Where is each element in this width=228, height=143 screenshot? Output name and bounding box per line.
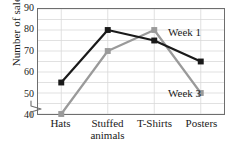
x-axis-tick-label: T-Shirts — [137, 117, 172, 129]
data-point-marker — [151, 27, 157, 33]
x-axis-tick-label: Posters — [186, 117, 218, 129]
x-axis-tick-labels: HatsStuffedanimalsT-ShirtsPosters — [37, 117, 225, 143]
x-axis-tick-label: Hats — [50, 117, 70, 129]
x-axis-tick-label: Stuffedanimals — [90, 117, 124, 141]
y-axis-tick-label: 60 — [14, 67, 34, 77]
y-axis-tick-labels: 405060708090 — [13, 0, 34, 143]
axis-break-icon — [30, 100, 44, 118]
line-chart: Number of sales 405060708090 HatsStuffed… — [0, 0, 228, 143]
series-annotation-week-1: Week 1 — [168, 27, 201, 38]
data-point-marker — [105, 48, 111, 54]
data-point-marker — [58, 80, 64, 86]
data-point-marker — [151, 38, 157, 44]
y-axis-tick-label: 80 — [14, 24, 34, 34]
y-axis-tick-label: 50 — [14, 89, 34, 99]
series-line — [61, 30, 201, 114]
y-axis-tick-label: 70 — [14, 46, 34, 56]
y-axis-tick-label: 90 — [14, 3, 34, 13]
data-point-marker — [198, 59, 204, 65]
series-annotation-week-3: Week 3 — [168, 88, 201, 99]
data-point-marker — [105, 27, 111, 33]
